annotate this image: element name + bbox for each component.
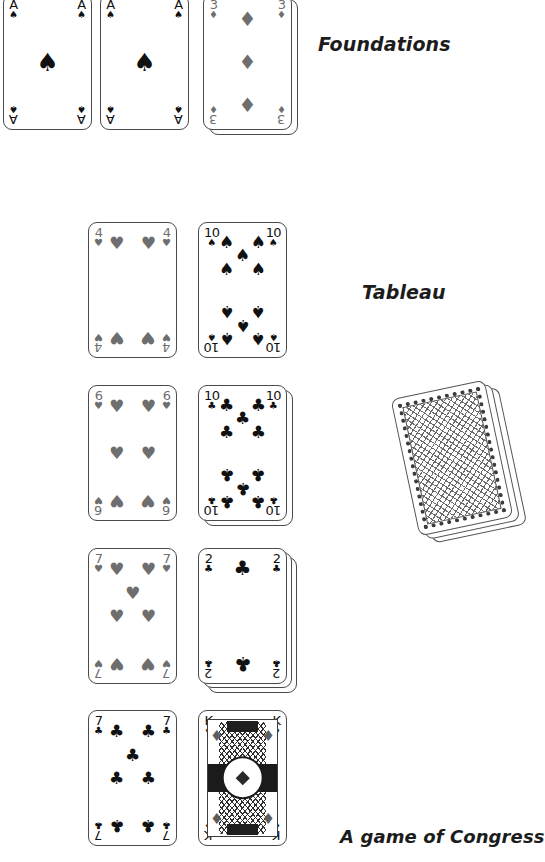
heart-pip: ♥ [109, 561, 124, 578]
card-pip-field: ♥ ♥ ♥ ♥ ♥ ♥ ♥ [104, 565, 161, 667]
spade-icon: ♠ [174, 11, 183, 20]
diamond-pip: ♦ [261, 812, 274, 827]
spade-pip: ♠ [235, 247, 250, 264]
card-back-dotted-border [398, 387, 507, 530]
card-pip-field: ♥ ♥ ♥ ♥ ♥ ♥ [104, 402, 161, 504]
card-index-bottom-right: 6 ♥ [162, 495, 171, 516]
card-index-bottom-right: 4 ♥ [162, 332, 171, 353]
heart-pip: ♥ [109, 608, 124, 625]
club-pip: ♣ [251, 492, 266, 509]
club-pip: ♣ [109, 816, 124, 833]
tableau-row-1-left[interactable]: 4 ♥ 4 ♥ 4 ♥ 4 ♥ ♥ ♥ ♥ ♥ [88, 222, 177, 358]
card-index-bottom-left: 6 ♥ [94, 495, 103, 516]
club-pip: ♣ [251, 423, 266, 440]
club-pip: ♣ [109, 770, 124, 787]
heart-icon: ♥ [94, 495, 103, 504]
spade-pip: ♠ [235, 316, 250, 333]
card-index-bottom-left: 7 ♣ [94, 820, 103, 841]
club-pip: ♣ [141, 723, 156, 740]
spade-icon: ♠ [77, 104, 86, 113]
club-pip: ♣ [219, 397, 234, 414]
heart-pip: ♥ [109, 491, 124, 508]
card-pip-field: ♣ ♣ ♣ ♣ ♣ ♣ ♣ [104, 727, 161, 829]
foundation-pile-1[interactable]: A ♠ A ♠ A ♠ A ♠ ♠ [3, 0, 92, 130]
spade-pip: ♠ [219, 260, 234, 277]
club-pip: ♣ [251, 397, 266, 414]
card-7-of-clubs[interactable]: 7 ♣ 7 ♣ 7 ♣ 7 ♣ ♣ ♣ ♣ ♣ ♣ ♣ ♣ [88, 710, 177, 846]
tableau-row-2-right[interactable]: 10 ♣ 10 ♣ 10 ♣ 10 ♣ ♣ ♣ ♣ ♣ ♣ ♣ [198, 385, 293, 527]
heart-pip: ♥ [141, 398, 156, 415]
king-center-medallion [221, 756, 264, 799]
club-pip: ♣ [251, 466, 266, 483]
club-icon: ♣ [162, 727, 171, 736]
card-index-top-right: A ♠ [77, 0, 86, 20]
spade-pip: ♠ [133, 50, 155, 75]
tableau-row-4-left[interactable]: 7 ♣ 7 ♣ 7 ♣ 7 ♣ ♣ ♣ ♣ ♣ ♣ ♣ ♣ [88, 710, 177, 846]
heart-icon: ♥ [162, 565, 171, 574]
club-icon: ♣ [162, 820, 171, 829]
foundation-pile-2[interactable]: A ♠ A ♠ A ♠ A ♠ ♠ [100, 0, 189, 130]
card-index-top-left: 4 ♥ [94, 227, 103, 248]
diamond-icon: ♦ [209, 11, 218, 20]
club-pip: ♣ [141, 770, 156, 787]
card-index-bottom-right: A ♠ [174, 104, 183, 125]
tableau-row-1-right[interactable]: 10 ♠ 10 ♠ 10 ♠ 10 ♠ ♠ ♠ ♠ ♠ ♠ ♠ [198, 222, 287, 358]
heart-pip: ♥ [125, 584, 140, 601]
spade-icon: ♠ [9, 104, 18, 113]
heart-icon: ♥ [94, 658, 103, 667]
spade-pip: ♠ [219, 303, 234, 320]
card-index-bottom-left: 4 ♥ [94, 332, 103, 353]
club-pip: ♣ [219, 492, 234, 509]
card-ace-of-spades[interactable]: A ♠ A ♠ A ♠ A ♠ ♠ [3, 0, 92, 130]
card-3-of-diamonds[interactable]: 3 ♦ 3 ♦ 3 ♦ 3 ♦ ♦ ♦ ♦ [203, 0, 292, 130]
spade-icon: ♠ [106, 11, 115, 20]
spade-pip: ♠ [36, 50, 58, 75]
heart-icon: ♥ [94, 332, 103, 341]
diamond-pip: ♦ [239, 52, 257, 72]
heart-icon: ♥ [94, 239, 103, 248]
stock-pile[interactable] [390, 380, 513, 537]
card-king-of-diamonds[interactable]: K ♦ K ♦ K ♦ K ♦ ♦ [198, 710, 287, 846]
foundations-label: Foundations [318, 33, 451, 55]
heart-icon: ♥ [162, 332, 171, 341]
card-index-bottom-right: 7 ♥ [162, 658, 171, 679]
spade-pip: ♠ [251, 303, 266, 320]
card-2-of-clubs[interactable]: 2 ♣ 2 ♣ 2 ♣ 2 ♣ ♣ ♣ [198, 548, 287, 684]
club-icon: ♣ [94, 820, 103, 829]
card-index-top-left: 6 ♥ [94, 390, 103, 411]
diamond-pip: ♦ [239, 9, 257, 29]
heart-icon: ♥ [162, 239, 171, 248]
heart-pip: ♥ [141, 235, 156, 252]
tableau-row-3-right[interactable]: 2 ♣ 2 ♣ 2 ♣ 2 ♣ ♣ ♣ [198, 548, 297, 694]
card-index-bottom-right: 2 ♣ [272, 658, 281, 679]
card-10-of-spades[interactable]: 10 ♠ 10 ♠ 10 ♠ 10 ♠ ♠ ♠ ♠ ♠ ♠ ♠ [198, 222, 287, 358]
card-index-top-left: 7 ♣ [94, 715, 103, 736]
heart-pip: ♥ [109, 654, 124, 671]
card-ace-of-spades[interactable]: A ♠ A ♠ A ♠ A ♠ ♠ [100, 0, 189, 130]
heart-pip: ♥ [141, 445, 156, 462]
card-index-bottom-right: A ♠ [77, 104, 86, 125]
club-icon: ♣ [204, 565, 213, 574]
card-7-of-hearts[interactable]: 7 ♥ 7 ♥ 7 ♥ 7 ♥ ♥ ♥ ♥ ♥ ♥ ♥ ♥ [88, 548, 177, 684]
club-pip: ♣ [235, 479, 250, 496]
card-6-of-hearts[interactable]: 6 ♥ 6 ♥ 6 ♥ 6 ♥ ♥ ♥ ♥ ♥ ♥ ♥ [88, 385, 177, 521]
club-pip: ♣ [235, 410, 250, 427]
diamond-pip: ♦ [210, 729, 223, 744]
tableau-row-4-right[interactable]: K ♦ K ♦ K ♦ K ♦ ♦ [198, 710, 287, 846]
tableau-row-3-left[interactable]: 7 ♥ 7 ♥ 7 ♥ 7 ♥ ♥ ♥ ♥ ♥ ♥ ♥ ♥ [88, 548, 177, 684]
heart-pip: ♥ [109, 235, 124, 252]
heart-pip: ♥ [141, 561, 156, 578]
heart-pip: ♥ [141, 608, 156, 625]
card-index-top-left: 7 ♥ [94, 553, 103, 574]
card-4-of-hearts[interactable]: 4 ♥ 4 ♥ 4 ♥ 4 ♥ ♥ ♥ ♥ ♥ [88, 222, 177, 358]
spade-pip: ♠ [219, 329, 234, 346]
foundation-pile-3[interactable]: 3 ♦ 3 ♦ 3 ♦ 3 ♦ ♦ ♦ ♦ [203, 0, 296, 134]
heart-pip: ♥ [141, 491, 156, 508]
card-pip-field: ♠ ♠ ♠ ♠ ♠ ♠ ♠ ♠ ♠ ♠ [214, 239, 271, 341]
card-index-bottom-right: 3 ♦ [277, 104, 286, 125]
card-10-of-clubs[interactable]: 10 ♣ 10 ♣ 10 ♣ 10 ♣ ♣ ♣ ♣ ♣ ♣ ♣ [198, 385, 287, 521]
card-pip-field: ♠ [116, 11, 173, 113]
tableau-row-2-left[interactable]: 6 ♥ 6 ♥ 6 ♥ 6 ♥ ♥ ♥ ♥ ♥ ♥ ♥ [88, 385, 177, 521]
king-court-figure: ♦ ♦ ♦ ♦ [207, 719, 278, 837]
